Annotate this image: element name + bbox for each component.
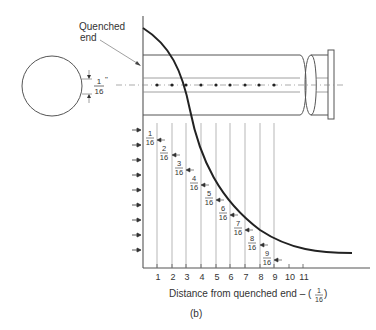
svg-text:3: 3 xyxy=(177,159,181,168)
svg-text:6: 6 xyxy=(221,204,225,213)
spacing-den: 16 xyxy=(95,87,104,96)
svg-text:1: 1 xyxy=(148,129,152,138)
svg-text:7: 7 xyxy=(243,272,248,282)
hardness-curve xyxy=(143,28,352,253)
svg-text:1: 1 xyxy=(155,272,160,282)
quenched-end-label-1: Quenched xyxy=(79,21,125,32)
specimen-cross-section xyxy=(22,56,82,116)
svg-text:16: 16 xyxy=(205,198,213,207)
figure-caption: (b) xyxy=(190,308,202,319)
x-tick-labels: 12 34 56 78 910 11 xyxy=(155,272,308,282)
svg-text:16: 16 xyxy=(190,183,198,192)
svg-text:4: 4 xyxy=(199,272,204,282)
svg-text:16: 16 xyxy=(248,243,256,252)
svg-text:5: 5 xyxy=(207,189,211,198)
svg-text:9: 9 xyxy=(272,272,277,282)
svg-text:5: 5 xyxy=(214,272,219,282)
svg-text:2: 2 xyxy=(162,144,166,153)
svg-text:): ) xyxy=(324,288,327,299)
specimen-flange xyxy=(328,50,334,119)
svg-text:10: 10 xyxy=(285,272,295,282)
svg-text:3: 3 xyxy=(184,272,189,282)
svg-text:9: 9 xyxy=(265,249,269,258)
svg-text:8: 8 xyxy=(250,234,254,243)
svg-text:16: 16 xyxy=(219,213,227,222)
svg-text:16: 16 xyxy=(234,228,242,237)
jominy-diagram: 1 16 " Quenched end xyxy=(0,0,376,330)
quenched-end-label-2: end xyxy=(80,32,97,43)
svg-text:7: 7 xyxy=(236,219,240,228)
svg-text:1: 1 xyxy=(317,287,321,294)
svg-text:4: 4 xyxy=(192,174,196,183)
leader-line xyxy=(100,40,140,65)
spacing-unit: " xyxy=(105,75,108,84)
measurement-points xyxy=(155,83,275,86)
svg-text:16: 16 xyxy=(175,168,183,177)
svg-text:6: 6 xyxy=(228,272,233,282)
quench-arrows xyxy=(132,128,141,252)
svg-text:16: 16 xyxy=(160,153,168,162)
svg-text:16: 16 xyxy=(315,296,323,303)
spacing-num: 1 xyxy=(97,77,102,86)
x-axis-label: Distance from quenched end – ( xyxy=(169,288,312,299)
distance-gridlines xyxy=(157,123,274,268)
svg-text:8: 8 xyxy=(258,272,263,282)
svg-text:16: 16 xyxy=(146,138,154,147)
svg-text:2: 2 xyxy=(170,272,175,282)
svg-text:11: 11 xyxy=(299,272,308,282)
svg-text:16: 16 xyxy=(263,258,271,267)
